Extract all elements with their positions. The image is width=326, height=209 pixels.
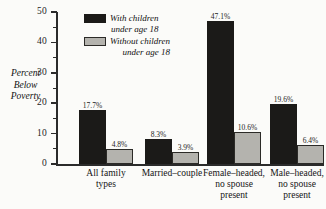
bar-group: 19.6%6.4% xyxy=(270,12,324,164)
y-axis-minor-tick xyxy=(53,88,57,89)
bar[interactable]: 17.7% xyxy=(79,110,106,164)
bar-value-label: 3.9% xyxy=(178,144,194,152)
legend-item-label: With children under age 18 xyxy=(110,13,158,34)
x-axis-category-label: Male–headed, no spouse present xyxy=(258,168,326,201)
bar[interactable]: 10.6% xyxy=(234,132,261,164)
bar-value-label: 10.6% xyxy=(238,124,257,132)
bar-value-label: 4.8% xyxy=(112,141,128,149)
x-axis-line xyxy=(56,164,324,166)
legend-swatch-dark xyxy=(84,14,106,23)
bar-group: 47.1%10.6% xyxy=(207,12,261,164)
bar[interactable]: 47.1% xyxy=(207,21,234,164)
bar-value-label: 8.3% xyxy=(151,131,167,139)
y-axis-tick-label: 10 xyxy=(37,129,47,139)
y-axis-tick-label: 20 xyxy=(37,98,47,108)
bar[interactable]: 6.4% xyxy=(297,145,324,164)
bar-value-label: 17.7% xyxy=(83,102,102,110)
y-axis-minor-tick xyxy=(53,148,57,149)
bar[interactable]: 3.9% xyxy=(172,152,199,164)
bar-value-label: 47.1% xyxy=(211,13,230,21)
legend-item[interactable]: Without children under age 18 xyxy=(84,36,170,57)
legend-item[interactable]: With children under age 18 xyxy=(84,13,170,34)
y-axis-tick-label: 30 xyxy=(37,68,47,78)
legend-swatch-light xyxy=(84,37,106,46)
y-axis-minor-tick xyxy=(53,57,57,58)
poverty-bar-chart: Percent Below Poverty 01020304050 17.7%4… xyxy=(0,0,326,209)
y-axis-tick-label: 50 xyxy=(37,7,47,17)
bar[interactable]: 4.8% xyxy=(106,149,133,164)
bar-value-label: 19.6% xyxy=(274,96,293,104)
bar[interactable]: 19.6% xyxy=(270,104,297,164)
y-axis-tick-label: 0 xyxy=(42,159,47,169)
chart-legend: With children under age 18Without childr… xyxy=(84,13,170,59)
y-axis-minor-tick xyxy=(53,27,57,28)
legend-item-label: Without children under age 18 xyxy=(110,36,170,57)
bar[interactable]: 8.3% xyxy=(145,139,172,164)
bar-value-label: 6.4% xyxy=(303,137,319,145)
y-axis-tick-label: 40 xyxy=(37,37,47,47)
y-axis-minor-tick xyxy=(53,118,57,119)
